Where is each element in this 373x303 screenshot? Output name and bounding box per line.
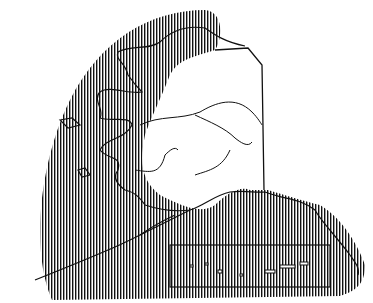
alaska-map <box>0 0 373 303</box>
rivers <box>135 102 262 175</box>
hatched-range <box>0 0 373 303</box>
canada-border <box>215 48 264 190</box>
